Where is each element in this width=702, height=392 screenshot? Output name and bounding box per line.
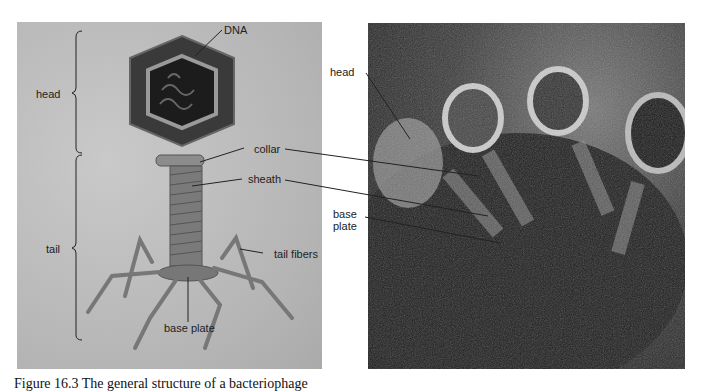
- label-sheath: sheath: [248, 173, 281, 185]
- tail-bracket: [72, 155, 82, 340]
- micrograph-label-base-line1: base: [333, 208, 357, 220]
- figure-caption: Figure 16.3 The general structure of a b…: [14, 376, 308, 392]
- sheath-shape: [170, 166, 202, 266]
- micrograph-label-head: head: [330, 66, 354, 78]
- label-head: head: [36, 88, 60, 100]
- head-bracket: [72, 31, 82, 153]
- label-base-plate: base plate: [164, 322, 215, 334]
- label-dna: DNA: [224, 24, 247, 36]
- label-collar: collar: [254, 143, 280, 155]
- micrograph-label-base-line2: plate: [333, 220, 357, 232]
- label-tail-fibers: tail fibers: [274, 248, 318, 260]
- collar-shape: [156, 155, 204, 166]
- label-tail: tail: [46, 243, 60, 255]
